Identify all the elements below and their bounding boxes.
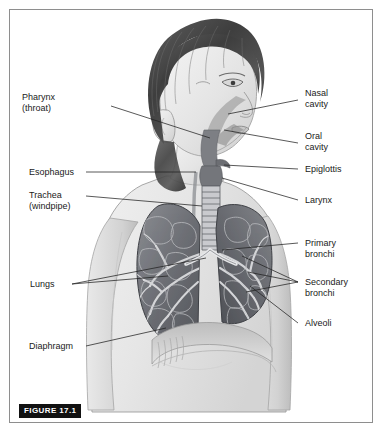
label-larynx-line1: Larynx <box>305 195 332 206</box>
label-lungs: Lungs <box>30 279 55 290</box>
label-epiglottis: Epiglottis <box>305 164 342 175</box>
label-diaphragm-line1: Diaphragm <box>29 341 73 352</box>
label-trachea-line1: Trachea <box>29 190 71 201</box>
label-primary-bronchi: Primary bronchi <box>305 238 336 259</box>
label-oral-cavity-line2: cavity <box>305 142 328 153</box>
label-nasal-cavity-line2: cavity <box>305 99 328 110</box>
label-secondary-bronchi-line2: bronchi <box>305 288 348 299</box>
label-primary-bronchi-line2: bronchi <box>305 249 336 260</box>
label-alveoli-line1: Alveoli <box>305 318 332 329</box>
label-pharynx-line2: (throat) <box>22 103 55 114</box>
label-lungs-line1: Lungs <box>30 279 55 290</box>
label-esophagus: Esophagus <box>29 167 74 178</box>
label-nasal-cavity-line1: Nasal <box>305 88 328 99</box>
label-pharynx-line1: Pharynx <box>22 92 55 103</box>
label-primary-bronchi-line1: Primary <box>305 238 336 249</box>
label-alveoli: Alveoli <box>305 318 332 329</box>
label-epiglottis-line1: Epiglottis <box>305 164 342 175</box>
figure-container: Pharynx (throat) Esophagus Trachea (wind… <box>0 0 384 434</box>
label-larynx: Larynx <box>305 195 332 206</box>
label-secondary-bronchi-line1: Secondary <box>305 277 348 288</box>
label-oral-cavity-line1: Oral <box>305 131 328 142</box>
label-secondary-bronchi: Secondary bronchi <box>305 277 348 298</box>
label-nasal-cavity: Nasal cavity <box>305 88 328 109</box>
anatomical-illustration <box>10 10 372 422</box>
label-pharynx: Pharynx (throat) <box>22 92 55 113</box>
leader-epiglottis <box>224 165 298 169</box>
label-trachea: Trachea (windpipe) <box>29 190 71 211</box>
larynx-shape <box>200 166 223 186</box>
label-diaphragm: Diaphragm <box>29 341 73 352</box>
label-trachea-line2: (windpipe) <box>29 201 71 212</box>
label-esophagus-line1: Esophagus <box>29 167 74 178</box>
figure-number-badge: FIGURE 17.1 <box>19 404 81 418</box>
label-oral-cavity: Oral cavity <box>305 131 328 152</box>
